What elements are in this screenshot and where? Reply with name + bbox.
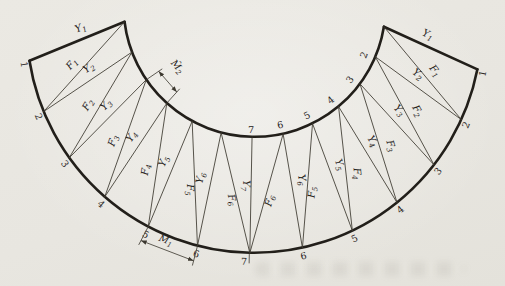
dim-label-M2: M̂2 — [167, 57, 187, 77]
label-Y3-L: Y3 — [98, 96, 116, 114]
number-outer-center-7: 7 — [241, 256, 247, 267]
member-Y6-L — [197, 132, 221, 246]
number-outer-right-6: 6 — [299, 250, 307, 262]
label-Y6-R: Y6 — [294, 173, 309, 187]
number-inner-right-6: 6 — [276, 119, 284, 131]
member-F1-R — [382, 27, 463, 120]
label-F6-L: F6 — [223, 192, 239, 208]
dim-ext-2-0 — [148, 69, 162, 79]
label-F2-L: F2 — [79, 96, 97, 114]
label-F1-L: F1 — [63, 56, 81, 74]
member-Y5-L — [148, 120, 192, 227]
number-outer-right-5: 5 — [349, 232, 359, 245]
member-F2-R — [373, 57, 436, 165]
label-Y2-L: Y2 — [81, 60, 98, 78]
member-Y6-R — [281, 134, 305, 248]
number-outer-right-4: 4 — [394, 203, 406, 215]
member-Y5-R — [310, 124, 354, 231]
member-F5-R — [302, 123, 312, 248]
number-inner-right-4: 4 — [325, 94, 337, 106]
label-Y5-L: Y5 — [156, 153, 173, 169]
number-outer-right-1: 1 — [476, 69, 488, 77]
number-outer-left-4: 4 — [95, 198, 107, 210]
number-outer-left-2: 2 — [33, 112, 45, 122]
tilted-drawing: Y1F1Y2F2Y3F3Y4F4Y5F5Y6F6Y1F1Y2F2Y3F3Y4F4… — [15, 19, 489, 271]
label-F1-R: F1 — [425, 62, 443, 80]
number-outer-left-1: 1 — [19, 61, 31, 69]
label-F3-L: F3 — [105, 133, 122, 150]
dim-label-M1: M̂1 — [156, 232, 175, 250]
label-F4-L: F4 — [139, 163, 154, 178]
number-outer-right-3: 3 — [432, 165, 444, 177]
member-F6-R — [250, 133, 283, 253]
number-outer-right-2: 2 — [460, 120, 473, 130]
dim-ext-2-1 — [168, 89, 180, 102]
member-Y3-L — [69, 78, 146, 159]
label-Y7-L: Y7 — [239, 180, 253, 192]
label-F4-R: F4 — [349, 166, 364, 180]
label-Y1-L: Y1 — [73, 20, 88, 37]
member-Y4-L — [105, 102, 167, 198]
truss-svg: Y1F1Y2F2Y3F3Y4F4Y5F5Y6F6Y1F1Y2F2Y3F3Y4F4… — [0, 0, 505, 286]
number-inner-right-2: 2 — [358, 50, 370, 60]
number-inner-right-5: 5 — [302, 109, 312, 122]
member-Y7-L — [250, 137, 252, 253]
label-F3-R: F3 — [382, 138, 399, 154]
label-Y1-R: Y1 — [420, 27, 436, 44]
member-Y4-R — [337, 107, 399, 203]
dim-line-M2 — [158, 71, 177, 92]
number-inner-center-7: 7 — [248, 124, 254, 135]
label-F2-R: F2 — [408, 102, 426, 120]
label-Y6-L: Y6 — [193, 171, 208, 185]
curved-truss-figure: Y1F1Y2F2Y3F3Y4F4Y5F5Y6F6Y1F1Y2F2Y3F3Y4F4… — [0, 0, 505, 286]
label-F5-L: F5 — [183, 183, 197, 196]
number-outer-left-3: 3 — [59, 158, 71, 169]
label-Y4-L: Y4 — [123, 128, 140, 145]
label-F6-R: F6 — [262, 193, 278, 209]
number-inner-right-3: 3 — [344, 74, 356, 85]
